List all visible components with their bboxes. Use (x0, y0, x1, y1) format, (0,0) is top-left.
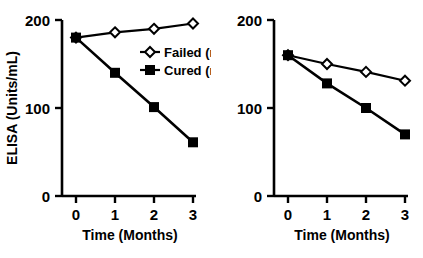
x-tick-label-0: 0 (284, 206, 292, 223)
series-point-cured-2 (361, 103, 371, 113)
series-line-failed (76, 24, 193, 38)
figure-container: 200 100 0 0 1 2 3 Time (Months) ELISA (U… (0, 0, 423, 258)
legend: Failed (n=3) Cured (n=13) (140, 45, 211, 78)
series-point-cured-0 (283, 50, 293, 60)
chart-panel-right: 200 100 0 0 1 2 3 Time (Months) (212, 0, 423, 258)
series-point-failed-3 (400, 76, 410, 86)
legend-entry-cured: Cured (n=13) (140, 63, 211, 78)
legend-label-cured: Cured (n=13) (164, 63, 211, 78)
series-point-failed-1 (322, 59, 332, 69)
y-tick-label-200: 200 (25, 12, 50, 29)
series-point-failed-3 (188, 19, 198, 29)
y-tick-label-0: 0 (254, 188, 262, 205)
y-tick-label-100: 100 (25, 100, 50, 117)
series-point-failed-2 (149, 24, 159, 34)
chart-panel-left: 200 100 0 0 1 2 3 Time (Months) ELISA (U… (0, 0, 211, 258)
legend-marker-open-diamond-icon (145, 47, 155, 57)
legend-entry-failed: Failed (n=3) (140, 45, 211, 60)
y-tick-label-100: 100 (237, 100, 262, 117)
y-tick-label-0: 0 (42, 188, 50, 205)
series-point-failed-1 (110, 27, 120, 37)
x-axis-title: Time (Months) (294, 227, 389, 243)
x-tick-label-1: 1 (323, 206, 331, 223)
legend-marker-filled-square-icon (145, 65, 155, 75)
series-point-cured-0 (71, 33, 81, 43)
x-tick-label-1: 1 (111, 206, 119, 223)
series-point-cured-3 (400, 129, 410, 139)
x-tick-label-2: 2 (362, 206, 370, 223)
series-point-failed-2 (361, 67, 371, 77)
series-point-cured-1 (110, 68, 120, 78)
y-axis-title: ELISA (Units/mL) (4, 51, 20, 165)
x-tick-label-3: 3 (189, 206, 197, 223)
x-tick-label-2: 2 (150, 206, 158, 223)
x-tick-label-3: 3 (401, 206, 409, 223)
y-tick-label-200: 200 (237, 12, 262, 29)
legend-label-failed: Failed (n=3) (164, 45, 211, 60)
x-axis-title: Time (Months) (82, 227, 177, 243)
left-panel-plot: 200 100 0 0 1 2 3 Time (Months) ELISA (U… (0, 0, 211, 258)
series-point-cured-1 (322, 78, 332, 88)
right-panel-plot: 200 100 0 0 1 2 3 Time (Months) (212, 0, 423, 258)
series-point-cured-2 (149, 102, 159, 112)
x-tick-label-0: 0 (72, 206, 80, 223)
series-point-cured-3 (188, 137, 198, 147)
